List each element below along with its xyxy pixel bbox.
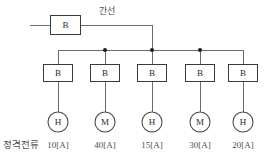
branch-breaker-label-3: B xyxy=(149,68,155,78)
branch-breaker-label-5: B xyxy=(240,68,246,78)
rated-current-value-3: 15[A] xyxy=(141,141,163,150)
bus-junction-dot-4 xyxy=(198,48,202,52)
single-line-diagram: B B H B M B H B xyxy=(0,0,275,167)
load-symbol-1: H xyxy=(55,117,62,127)
load-symbol-5: H xyxy=(240,117,247,127)
main-breaker-label: B xyxy=(62,20,68,30)
rated-current-value-5: 20[A] xyxy=(232,141,254,150)
load-symbol-4: M xyxy=(196,117,204,127)
load-symbol-2: M xyxy=(101,117,109,127)
rated-current-value-1: 10[A] xyxy=(47,141,69,150)
bus-junction-dot-2 xyxy=(103,48,107,52)
rated-current-value-4: 30[A] xyxy=(189,141,211,150)
bus-junction-dot-3 xyxy=(150,48,154,52)
branch-breaker-label-2: B xyxy=(102,68,108,78)
branch-breaker-label-1: B xyxy=(55,68,61,78)
feeder-label: 간선 xyxy=(99,7,115,16)
rated-current-value-2: 40[A] xyxy=(94,141,116,150)
branch-breaker-label-4: B xyxy=(197,68,203,78)
rated-current-row-label: 정격전류 xyxy=(3,140,39,150)
load-symbol-3: H xyxy=(149,117,156,127)
